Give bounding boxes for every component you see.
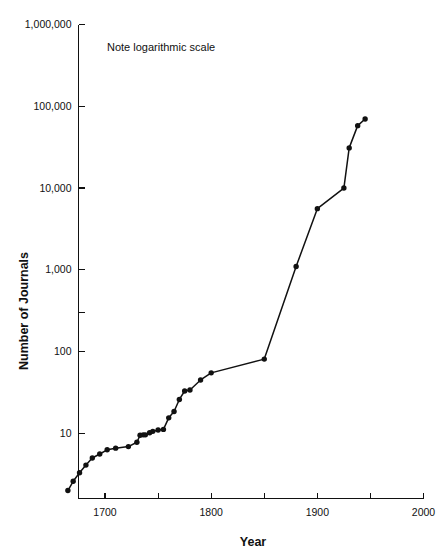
- data-point: [362, 116, 367, 121]
- data-point: [155, 427, 160, 432]
- data-point: [171, 409, 176, 414]
- x-axis-title: Year: [240, 535, 267, 549]
- data-point: [97, 451, 102, 456]
- data-point: [126, 444, 131, 449]
- data-point: [341, 185, 346, 190]
- data-point: [182, 388, 187, 393]
- data-point: [293, 264, 298, 269]
- figure-container: 101001,00010,000100,0001,000,000 1700180…: [0, 0, 439, 553]
- data-point: [355, 123, 360, 128]
- data-point: [134, 440, 139, 445]
- data-point: [177, 397, 182, 402]
- y-tick-label-10000: 10,000: [39, 182, 71, 194]
- data-point: [104, 447, 109, 452]
- x-tick-label-2000: 2000: [412, 506, 436, 518]
- chart-background: [0, 0, 439, 553]
- data-point: [187, 387, 192, 392]
- data-point: [150, 429, 155, 434]
- x-tick-label-1900: 1900: [306, 506, 330, 518]
- y-tick-label-10: 10: [60, 427, 72, 439]
- data-point: [65, 488, 70, 493]
- data-point: [198, 377, 203, 382]
- x-tick-label-1700: 1700: [93, 506, 117, 518]
- y-tick-label-100: 100: [54, 345, 72, 357]
- log-scale-note: Note logarithmic scale: [107, 41, 215, 53]
- y-tick-label-1000000: 1,000,000: [25, 18, 72, 30]
- y-axis-title: Number of Journals: [17, 252, 31, 370]
- data-point: [262, 356, 267, 361]
- y-tick-label-100000: 100,000: [34, 100, 72, 112]
- data-point: [113, 445, 118, 450]
- data-point: [315, 206, 320, 211]
- data-point: [83, 462, 88, 467]
- data-point: [77, 470, 82, 475]
- data-point: [90, 455, 95, 460]
- data-point: [70, 479, 75, 484]
- data-point: [166, 415, 171, 420]
- journals-growth-chart: 101001,00010,000100,0001,000,000 1700180…: [0, 0, 439, 553]
- y-tick-label-1000: 1,000: [45, 263, 71, 275]
- data-point: [346, 145, 351, 150]
- x-tick-label-1800: 1800: [200, 506, 224, 518]
- data-point: [208, 370, 213, 375]
- data-point: [161, 427, 166, 432]
